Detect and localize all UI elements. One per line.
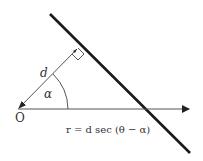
angle-label: α — [44, 88, 52, 100]
diagram-canvas — [0, 0, 203, 161]
angle-arc — [53, 74, 68, 109]
origin-label: O — [15, 112, 25, 124]
equation-label: r = d sec (θ − α) — [66, 125, 150, 135]
distance-label: d — [40, 67, 48, 79]
right-angle-marker — [72, 48, 84, 60]
